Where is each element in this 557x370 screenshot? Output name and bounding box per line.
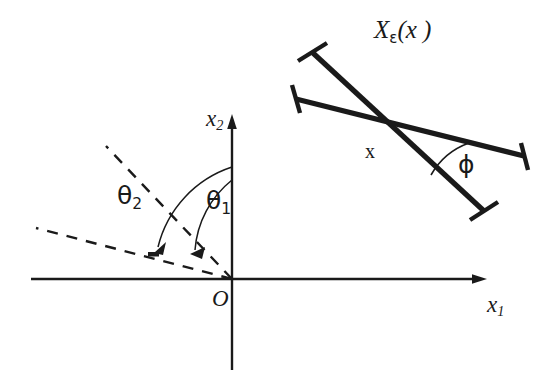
theta1-arrowhead — [190, 247, 205, 259]
theta1-label-subscript: 1 — [221, 200, 231, 218]
axis-label-x1: x1 — [487, 293, 504, 319]
segment-set-label-argument: (x ) — [397, 16, 431, 43]
segment-set-label: Xε(x ) — [374, 17, 431, 46]
crossing-segments — [292, 43, 528, 220]
theta2-label-base: θ — [117, 181, 132, 210]
figure-root: x2 x1 O θ1 θ2 ϕ x Xε(x ) — [0, 0, 557, 370]
theta1-label: θ1 — [206, 188, 231, 217]
segment-a-endcap-top — [298, 43, 327, 61]
theta1-label-base: θ — [206, 186, 221, 215]
theta2-label-subscript: 2 — [132, 195, 142, 213]
segment-a-shaft — [313, 53, 484, 211]
segment-set-label-base: X — [374, 16, 389, 43]
theta2-label: θ2 — [117, 183, 142, 212]
origin-label: O — [212, 287, 229, 310]
diagram-canvas — [0, 0, 557, 370]
theta2-arrow-tail-mark — [148, 252, 159, 257]
axis-label-x2-subscript: 2 — [216, 117, 223, 133]
phi-label: ϕ — [458, 152, 475, 177]
axis-label-x1-subscript: 1 — [497, 303, 504, 319]
axis-label-x2: x2 — [206, 107, 223, 133]
x2-axis-arrowhead — [227, 114, 237, 129]
x1-axis-arrowhead — [472, 274, 487, 284]
point-x-label: x — [365, 141, 375, 161]
axis-label-x1-base: x — [487, 292, 497, 317]
axis-label-x2-base: x — [206, 106, 216, 131]
segment-b-shaft — [296, 99, 524, 156]
